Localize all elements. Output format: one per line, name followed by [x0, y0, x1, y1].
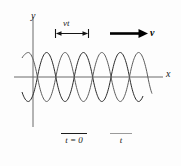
vt-arrowhead-right — [83, 31, 89, 36]
wave-diagram-figure: y x vt v t = 0 t — [0, 0, 181, 166]
vt-arrowhead-left — [56, 31, 62, 36]
x-axis-label: x — [166, 69, 170, 79]
legend-entry-t: t — [102, 133, 140, 146]
legend-swatch-t0 — [61, 133, 87, 134]
legend-label-t: t — [102, 136, 140, 146]
legend-label-t0: t = 0 — [55, 136, 93, 146]
y-axis-label: y — [31, 11, 35, 21]
velocity-arrowhead — [139, 29, 149, 38]
legend: t = 0 t — [55, 133, 140, 159]
velocity-vector-label: v — [150, 28, 154, 38]
vt-displacement-label: vt — [63, 19, 70, 28]
legend-entry-t0: t = 0 — [55, 133, 93, 146]
legend-swatch-t — [110, 133, 132, 134]
